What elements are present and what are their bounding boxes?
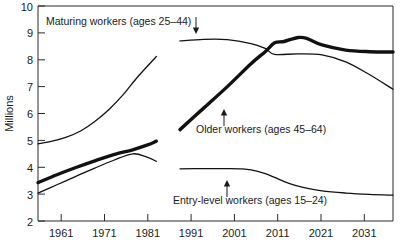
y-tick-label-10: 10 bbox=[21, 1, 33, 13]
y-tick-label-3: 3 bbox=[27, 189, 33, 201]
x-tick-label-1961: 1961 bbox=[49, 227, 73, 239]
y-tick-label-7: 7 bbox=[27, 81, 33, 93]
y-axis-tick-labels: 10 9 8 7 6 5 4 3 2 bbox=[21, 1, 33, 228]
series-line-entry-level-workers-ages-15-24-projected bbox=[180, 169, 393, 196]
series-line-maturing-workers-ages-25-44-projected bbox=[180, 39, 393, 89]
annotation-older: Older workers (ages 45–64) bbox=[196, 109, 326, 135]
annotation-entry: Entry-level workers (ages 15–24) bbox=[173, 180, 327, 206]
series-label-maturing-workers: Maturing workers (ages 25–44) bbox=[46, 15, 191, 27]
series-line-older-workers-ages-45-64-projected bbox=[180, 37, 393, 129]
y-tick-label-4: 4 bbox=[27, 162, 33, 174]
x-tick-label-1991: 1991 bbox=[179, 227, 203, 239]
data-series-layer bbox=[38, 37, 393, 195]
x-axis-ticks bbox=[61, 214, 364, 221]
x-tick-label-2001: 2001 bbox=[222, 227, 246, 239]
series-entry-level-workers-ages-15-24 bbox=[38, 154, 393, 195]
y-tick-label-5: 5 bbox=[27, 135, 33, 147]
chart-svg: 10 9 8 7 6 5 4 3 2 Millions 1961 1971 19… bbox=[0, 0, 405, 248]
y-tick-label-9: 9 bbox=[27, 27, 33, 39]
x-tick-label-1981: 1981 bbox=[136, 227, 160, 239]
line-chart-canadian-workforce-by-age: 10 9 8 7 6 5 4 3 2 Millions 1961 1971 19… bbox=[0, 0, 405, 248]
y-tick-label-8: 8 bbox=[27, 54, 33, 66]
arrow-down-icon bbox=[193, 28, 199, 35]
series-label-entry-level-workers: Entry-level workers (ages 15–24) bbox=[173, 194, 327, 206]
x-tick-label-2021: 2021 bbox=[309, 227, 333, 239]
series-label-older-workers: Older workers (ages 45–64) bbox=[196, 123, 326, 135]
arrow-up-icon bbox=[224, 180, 230, 187]
plot-frame bbox=[38, 6, 393, 221]
x-tick-label-1971: 1971 bbox=[92, 227, 116, 239]
y-axis-ticks bbox=[38, 6, 45, 221]
series-line-maturing-workers-ages-25-44-historical bbox=[38, 57, 156, 144]
y-tick-label-6: 6 bbox=[27, 108, 33, 120]
x-axis-tick-labels: 1961 1971 1981 1991 2001 2011 2021 2031 bbox=[49, 227, 377, 239]
y-tick-label-2: 2 bbox=[27, 216, 33, 228]
series-line-older-workers-ages-45-64-historical bbox=[38, 141, 156, 182]
arrow-up-icon bbox=[221, 109, 227, 116]
annotation-maturing: Maturing workers (ages 25–44) bbox=[46, 15, 199, 34]
y-axis-title: Millions bbox=[3, 95, 15, 132]
x-tick-label-2031: 2031 bbox=[352, 227, 376, 239]
x-tick-label-2011: 2011 bbox=[266, 227, 290, 239]
